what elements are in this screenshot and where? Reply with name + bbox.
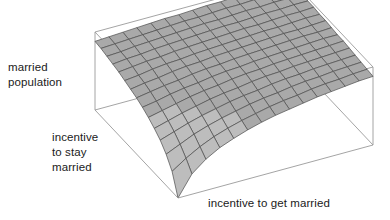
z-axis-label-line-1: married bbox=[8, 60, 62, 75]
x-axis-label-line-1: incentive to get married bbox=[208, 196, 330, 211]
y-axis-label: incentive to stay married bbox=[52, 130, 98, 175]
surface-plot-figure: married population incentive to stay mar… bbox=[0, 0, 390, 220]
surface-plot-canvas bbox=[0, 0, 390, 220]
z-axis-label-line-2: population bbox=[8, 75, 62, 90]
z-axis-label: married population bbox=[8, 60, 62, 90]
y-axis-label-line-3: married bbox=[52, 160, 98, 175]
y-axis-label-line-2: to stay bbox=[52, 145, 98, 160]
y-axis-label-line-1: incentive bbox=[52, 130, 98, 145]
x-axis-label: incentive to get married bbox=[208, 196, 330, 211]
